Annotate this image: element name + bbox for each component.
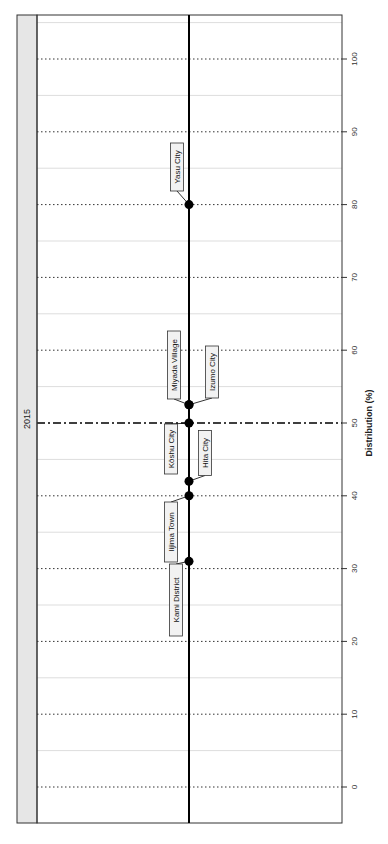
- x-tick-label: 80: [350, 200, 359, 209]
- data-point: [185, 491, 194, 500]
- data-point: [185, 419, 194, 428]
- data-point: [185, 557, 194, 566]
- facet-strip-label: 2015: [22, 409, 32, 429]
- x-axis-title: Distribution (%): [364, 390, 374, 457]
- x-tick-label: 10: [350, 709, 359, 718]
- point-label: Yasu City: [173, 150, 182, 184]
- x-tick-label: 0: [350, 784, 359, 789]
- x-tick-label: 20: [350, 636, 359, 645]
- data-point: [185, 477, 194, 486]
- data-points: Kami DistrictIijima TownHita CityKōshu C…: [165, 143, 219, 636]
- point-label: Miyada Village: [170, 339, 179, 391]
- point-label: Izumo City: [208, 353, 217, 391]
- x-tick-label: 70: [350, 272, 359, 281]
- point-label: Iijima Town: [167, 512, 176, 551]
- x-tick-label: 40: [350, 491, 359, 500]
- chart: 2015 0102030405060708090100 Distribution…: [0, 0, 388, 844]
- data-point: [185, 400, 194, 409]
- x-tick-label: 100: [350, 52, 359, 66]
- x-axis: 0102030405060708090100: [342, 52, 359, 789]
- point-label: Hita City: [201, 438, 210, 468]
- data-point: [185, 200, 194, 209]
- x-tick-label: 60: [350, 345, 359, 354]
- point-label: Kami District: [172, 577, 181, 623]
- x-tick-label: 30: [350, 564, 359, 573]
- point-label: Kōshu City: [167, 430, 176, 469]
- x-tick-label: 50: [350, 418, 359, 427]
- x-tick-label: 90: [350, 127, 359, 136]
